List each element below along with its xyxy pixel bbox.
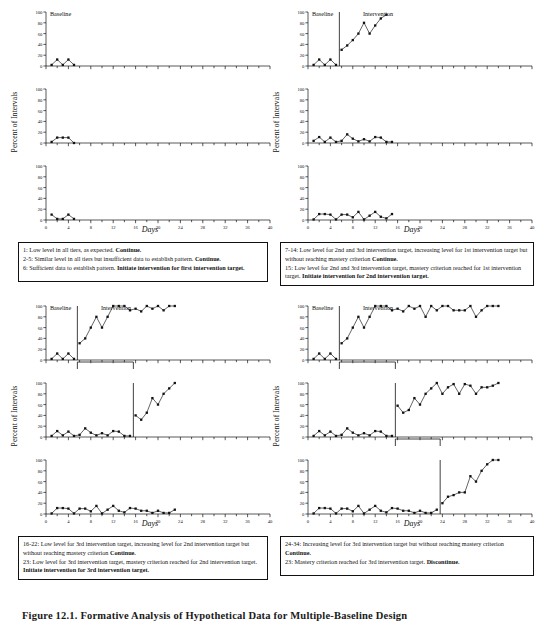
y-tick-label: 80 [300, 21, 305, 26]
caption-action: Initiate intervention for 3rd interventi… [23, 566, 149, 573]
baseline-point [335, 358, 337, 360]
caption-text: 16-22: Low level for 3rd intervention ta… [23, 540, 249, 556]
baseline-point [67, 430, 69, 432]
intervention-point [168, 305, 170, 307]
baseline-point [129, 435, 131, 437]
baseline-point [352, 510, 354, 512]
intervention-point [346, 337, 348, 339]
y-tick-label: 20 [38, 130, 43, 135]
baseline-point [357, 140, 359, 142]
intervention-point [363, 326, 365, 328]
tier-chart-3: 0204060801000481216202428323640 [26, 160, 274, 234]
intervention-point [480, 470, 482, 472]
intervention-point [480, 386, 482, 388]
caption-action: Discontinue. [427, 558, 460, 565]
tier-row-2: 020406080100 [288, 83, 536, 157]
tier-stack: 020406080100BaselineIntervention02040608… [288, 6, 536, 238]
y-tick-label: 80 [300, 469, 305, 474]
intervention-point [408, 409, 410, 411]
baseline-point [67, 507, 69, 509]
tier-row-2: 020406080100 [26, 83, 274, 157]
intervention-point [346, 44, 348, 46]
baseline-point [385, 141, 387, 143]
baseline-point [413, 512, 415, 514]
panel-3-caption-box: 16-22: Low level for 3rd intervention ta… [18, 536, 268, 580]
y-tick-label: 20 [38, 53, 43, 58]
caption-text: 7-14: Low level for 2nd and 3rd interven… [285, 246, 527, 262]
intervention-point [447, 386, 449, 388]
intervention-point [151, 308, 153, 310]
y-tick-label: 20 [300, 53, 305, 58]
y-tick-label: 100 [36, 458, 44, 463]
baseline-point [363, 512, 365, 514]
intervention-point [151, 397, 153, 399]
baseline-point [368, 140, 370, 142]
y-tick-label: 100 [298, 87, 306, 92]
baseline-point [50, 64, 52, 66]
baseline-point [56, 136, 58, 138]
phase-line-connector [288, 438, 536, 446]
panel-top-left: Percent of Intervals020406080100Baseline… [12, 6, 274, 294]
intervention-point [464, 383, 466, 385]
y-tick-label: 60 [38, 403, 43, 408]
caption-text: 23: Low level for 3rd intervention targe… [23, 558, 257, 565]
x-axis-label: Days [288, 519, 536, 528]
baseline-point [50, 213, 52, 215]
y-tick-label: 40 [300, 336, 305, 341]
intervention-phase-label: Intervention [363, 10, 393, 17]
caption-text: 6: Sufficient data to establish pattern. [23, 264, 117, 271]
baseline-point [312, 435, 314, 437]
y-tick-label: 0 [40, 512, 43, 517]
baseline-point [430, 512, 432, 514]
caption-line: 24-34: Increasing level for 3rd interven… [285, 540, 529, 558]
intervention-point [424, 316, 426, 318]
baseline-point [95, 434, 97, 436]
baseline-point [357, 211, 359, 213]
baseline-phase-label: Baseline [50, 10, 72, 17]
intervention-point [441, 502, 443, 504]
baseline-point [380, 430, 382, 432]
tier-chart-1: 020406080100Baseline [26, 6, 274, 80]
caption-action: Continue. [195, 255, 221, 262]
baseline-point [374, 211, 376, 213]
y-tick-label: 60 [38, 480, 43, 485]
y-tick-label: 20 [38, 347, 43, 352]
y-tick-label: 20 [300, 501, 305, 506]
panel-3-charts: Percent of Intervals020406080100Baseline… [12, 300, 274, 532]
y-tick-label: 100 [298, 10, 306, 15]
baseline-point [396, 507, 398, 509]
caption-line: 6: Sufficient data to establish pattern.… [23, 264, 263, 273]
baseline-point [391, 141, 393, 143]
y-tick-label: 20 [38, 501, 43, 506]
intervention-point [357, 32, 359, 34]
y-tick-label: 60 [300, 32, 305, 37]
baseline-point [62, 64, 64, 66]
intervention-point [174, 305, 176, 307]
tier-row-2: 020406080100 [26, 377, 274, 451]
y-tick-label: 60 [300, 109, 305, 114]
y-tick-label: 80 [38, 469, 43, 474]
y-tick-label: 0 [302, 218, 305, 223]
y-tick-label: 100 [36, 87, 44, 92]
baseline-point [335, 435, 337, 437]
intervention-point [174, 382, 176, 384]
y-tick-label: 0 [40, 435, 43, 440]
baseline-point [424, 512, 426, 514]
y-tick-label: 0 [40, 218, 43, 223]
baseline-point [312, 358, 314, 360]
intervention-point [475, 316, 477, 318]
y-tick-label: 100 [298, 458, 306, 463]
baseline-phase-label: Baseline [312, 10, 334, 17]
y-tick-label: 80 [38, 392, 43, 397]
baseline-point [340, 140, 342, 142]
baseline-point [50, 512, 52, 514]
baseline-point [56, 430, 58, 432]
baseline-point [118, 430, 120, 432]
baseline-point [419, 510, 421, 512]
y-tick-label: 60 [300, 186, 305, 191]
y-tick-label: 80 [300, 392, 305, 397]
y-tick-label: 80 [300, 98, 305, 103]
intervention-point [380, 17, 382, 19]
y-tick-label: 40 [38, 119, 43, 124]
intervention-point [402, 310, 404, 312]
